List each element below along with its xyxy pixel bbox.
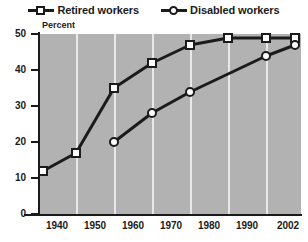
data-point-retired-1990 [224, 34, 232, 42]
plot-area [40, 34, 301, 214]
legend-label-disabled-workers: Disabled workers [190, 4, 280, 16]
data-point-disabled-1970 [148, 109, 156, 117]
y-tick-0 [31, 213, 39, 215]
series-layer [40, 34, 301, 214]
percent-of-workers-line-chart: Retired workers Disabled workers Percent [0, 0, 308, 242]
chart-legend: Retired workers Disabled workers [0, 0, 308, 20]
y-label-50: 50 [2, 28, 26, 39]
data-point-disabled-1990 [262, 52, 270, 60]
data-point-disabled-1980 [186, 88, 194, 96]
data-point-retired-1970 [148, 59, 156, 67]
circle-marker-icon [161, 5, 187, 16]
y-tick-20 [31, 141, 39, 143]
y-axis-line [38, 32, 40, 216]
x-label-1940: 1940 [46, 220, 68, 231]
y-label-40: 40 [2, 64, 26, 75]
legend-label-retired-workers: Retired workers [57, 4, 139, 16]
y-label-10: 10 [2, 172, 26, 183]
y-label-20: 20 [2, 136, 26, 147]
data-point-disabled-1960 [110, 138, 118, 146]
square-marker-icon [28, 5, 54, 16]
y-tick-40 [31, 69, 39, 71]
data-point-retired-1940 [39, 167, 47, 175]
y-tick-30 [31, 105, 39, 107]
x-axis-line [24, 214, 302, 216]
x-label-2002: 2002 [277, 220, 299, 231]
y-label-0: 0 [2, 208, 26, 219]
x-label-1950: 1950 [84, 220, 106, 231]
x-label-1970: 1970 [160, 220, 182, 231]
data-point-retired-1980 [186, 41, 194, 49]
x-label-1980: 1980 [198, 220, 220, 231]
x-label-1960: 1960 [122, 220, 144, 231]
y-tick-50 [31, 33, 39, 35]
y-axis-title: Percent [42, 20, 75, 30]
y-label-30: 30 [2, 100, 26, 111]
data-point-retired-1998 [262, 34, 270, 42]
y-axis-labels: 50 40 30 20 10 0 [0, 0, 30, 242]
data-point-retired-1960 [110, 84, 118, 92]
data-point-retired-1950 [72, 149, 80, 157]
x-label-1990: 1990 [236, 220, 258, 231]
data-point-disabled-2002 [291, 41, 299, 49]
legend-item-disabled-workers: Disabled workers [161, 4, 280, 16]
y-tick-10 [31, 177, 39, 179]
legend-item-retired-workers: Retired workers [28, 4, 139, 16]
